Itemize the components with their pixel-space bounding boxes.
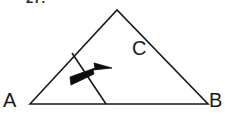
geometry-figure: A B C 27. [0, 0, 225, 121]
region-label-c: C [132, 38, 146, 58]
problem-number-fragment: 27. [26, 0, 46, 6]
vertex-label-a: A [3, 90, 16, 110]
vertex-label-b: B [209, 90, 222, 110]
triangle-outline [30, 10, 208, 104]
triangle-diagram-svg [0, 0, 225, 121]
